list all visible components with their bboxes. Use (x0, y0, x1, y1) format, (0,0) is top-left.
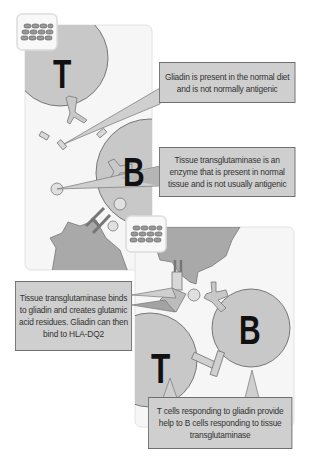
t-cell-label-top: T (53, 52, 71, 97)
epithelium-tile-icon-top (17, 14, 57, 50)
callout-transglutaminase: Tissue transglutaminase is an enzyme tha… (159, 147, 295, 197)
b-cell-label-top: B (123, 150, 145, 195)
transglutaminase-icon (114, 198, 126, 210)
callout-gliadin: Gliadin is present in the normal diet an… (159, 62, 295, 103)
t-cell-label-bottom: T (151, 345, 170, 393)
callout-help: T cells responding to gliadin provide he… (148, 397, 292, 449)
transglutaminase-icon (108, 221, 118, 231)
b-cell-label-bottom: B (239, 308, 261, 353)
epithelium-tile-icon-bottom (126, 216, 166, 252)
celiac-disease-diagram: T B T B Gliadin is present in the normal… (0, 0, 309, 461)
callout-binding: Tissue transglutaminase binds to gliadin… (15, 281, 132, 351)
